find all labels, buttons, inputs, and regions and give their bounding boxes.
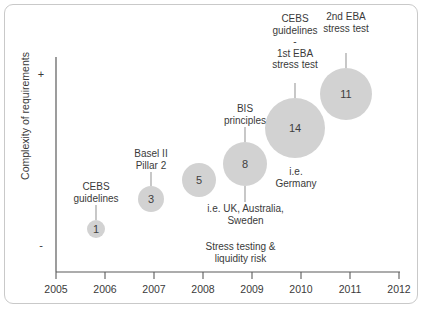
x-tick-label-2005: 2005 (44, 283, 68, 295)
annotation-ie-germany: i.e. Germany (265, 166, 327, 189)
bubble-chart-figure: 2005 2006 2007 2008 2009 2010 2011 2012 … (0, 0, 425, 314)
x-tick-label-2010: 2010 (289, 283, 313, 295)
x-tick-label-2008: 2008 (191, 283, 215, 295)
x-tick-label-2007: 2007 (142, 283, 166, 295)
y-axis-plus-sign: + (38, 68, 44, 80)
x-tick-label-2006: 2006 (93, 283, 117, 295)
annotation-ie-uk-australia-sweden: i.e. UK, Australia, Sweden (192, 203, 299, 226)
annotation-cebs-guidelines: CEBS guidelines (60, 181, 132, 204)
y-axis-minus-sign: - (39, 239, 43, 251)
bubble-value-2008: 5 (196, 174, 202, 186)
chart-canvas: 2005 2006 2007 2008 2009 2010 2011 2012 … (0, 0, 425, 314)
bubble-value-2009: 8 (242, 158, 248, 170)
bubble-value-2011: 11 (340, 88, 351, 100)
x-tick-label-2012: 2012 (387, 283, 411, 295)
x-tick-label-2009: 2009 (240, 283, 264, 295)
bubble-value-2007: 3 (148, 193, 154, 205)
bubble-value-2010: 14 (289, 122, 301, 134)
y-axis-title: Complexity of requirements (19, 21, 31, 211)
annotation-2nd-eba-stress-test: 2nd EBA stress test (311, 11, 381, 34)
annotation-basel-ii-pillar-2: Basel II Pillar 2 (115, 148, 187, 171)
x-tick-label-2011: 2011 (339, 283, 362, 295)
annotation-bis-principles: BIS principles (209, 103, 281, 126)
annotation-stress-testing-liquidity-risk: Stress testing & liquidity risk (188, 241, 293, 264)
bubble-value-2006: 1 (93, 223, 99, 235)
